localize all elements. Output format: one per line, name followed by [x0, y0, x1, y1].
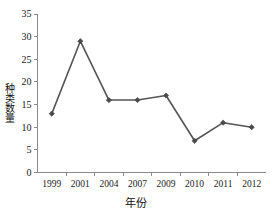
series-markers — [49, 39, 254, 144]
x-tick-label: 1999 — [42, 179, 61, 189]
data-point-marker — [106, 97, 111, 102]
y-tick-label: 25 — [22, 54, 32, 65]
x-axis-ticks: 19992001200420072009201020112012 — [42, 173, 261, 189]
y-tick-label: 10 — [22, 122, 32, 133]
x-tick-label: 2007 — [128, 179, 147, 189]
y-tick-label: 0 — [27, 167, 32, 178]
y-tick-label: 20 — [22, 76, 32, 87]
data-point-marker — [135, 97, 140, 102]
y-axis-ticks: 05101520253035 — [22, 8, 38, 178]
x-tick-label: 2012 — [242, 179, 261, 189]
x-tick-label: 2001 — [71, 179, 90, 189]
y-tick-label: 35 — [22, 8, 32, 19]
plot-area: 05101520253035 1999200120042007200920102… — [0, 0, 272, 214]
y-tick-label: 5 — [27, 144, 32, 155]
data-point-marker — [49, 111, 54, 116]
y-tick-label: 15 — [22, 99, 32, 110]
data-point-marker — [249, 125, 254, 130]
x-axis-title: 年份 — [0, 194, 272, 210]
x-tick-label: 2009 — [157, 179, 176, 189]
x-tick-label: 2004 — [99, 179, 118, 189]
series-line-zhonglei-shuliang — [52, 41, 252, 141]
x-tick-label: 2010 — [185, 179, 204, 189]
y-tick-label: 30 — [22, 31, 32, 42]
x-tick-label: 2011 — [214, 179, 233, 189]
line-chart: 种类数量 05101520253035 19992001200420072009… — [0, 0, 272, 214]
data-point-marker — [78, 39, 83, 44]
